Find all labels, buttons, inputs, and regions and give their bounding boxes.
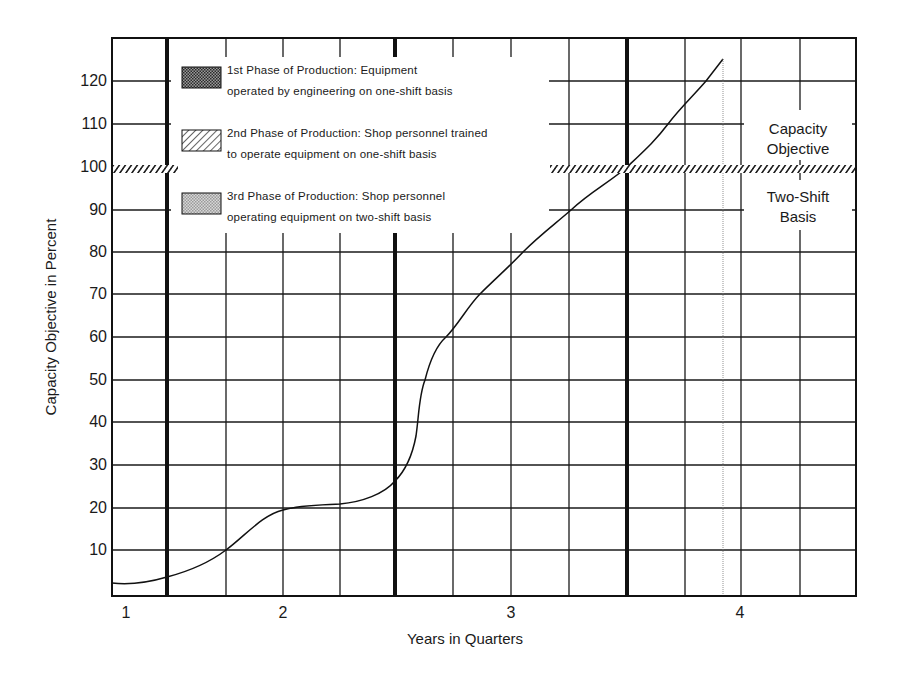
capacity-band-right xyxy=(550,165,856,173)
x-tick-label: 1 xyxy=(122,605,131,621)
x-tick-label: 3 xyxy=(507,605,516,621)
y-tick-label: 120 xyxy=(65,73,107,89)
x-tick-label: 4 xyxy=(736,605,745,621)
legend-swatch-phase2 xyxy=(182,130,221,151)
legend-line: operating equipment on two-shift basis xyxy=(227,207,445,228)
annotation-line: Objective xyxy=(753,139,843,159)
annotation-line: Basis xyxy=(753,207,843,227)
legend-line: 3rd Phase of Production: Shop personnel xyxy=(227,186,445,207)
y-tick-label: 70 xyxy=(65,286,107,302)
y-tick-label: 10 xyxy=(65,542,107,558)
legend-line: operated by engineering on one-shift bas… xyxy=(227,81,453,102)
y-tick-label: 50 xyxy=(65,372,107,388)
y-tick-label: 60 xyxy=(65,329,107,345)
annotation-line: Capacity xyxy=(753,119,843,139)
annotation-line: Two-Shift xyxy=(753,187,843,207)
legend-item-phase1: 1st Phase of Production: Equipment opera… xyxy=(227,60,453,102)
y-tick-label: 80 xyxy=(65,244,107,260)
x-axis-title: Years in Quarters xyxy=(407,630,523,647)
legend-line: to operate equipment on one-shift basis xyxy=(227,144,488,165)
legend-line: 2nd Phase of Production: Shop personnel … xyxy=(227,123,488,144)
capacity-band-left xyxy=(112,165,178,173)
y-tick-label: 90 xyxy=(65,202,107,218)
y-tick-label: 100 xyxy=(65,159,107,175)
legend-swatch-phase3 xyxy=(182,193,221,214)
y-tick-label: 30 xyxy=(65,457,107,473)
legend-swatch-phase1 xyxy=(182,67,221,88)
y-tick-label: 40 xyxy=(65,414,107,430)
legend-line: 1st Phase of Production: Equipment xyxy=(227,60,453,81)
capacity-objective-label: Capacity Objective xyxy=(753,119,843,159)
two-shift-basis-label: Two-Shift Basis xyxy=(753,187,843,227)
legend-item-phase3: 3rd Phase of Production: Shop personnel … xyxy=(227,186,445,228)
y-tick-label: 110 xyxy=(65,116,107,132)
y-axis-title: Capacity Objective in Percent xyxy=(42,219,59,416)
x-tick-label: 2 xyxy=(279,605,288,621)
legend-item-phase2: 2nd Phase of Production: Shop personnel … xyxy=(227,123,488,165)
y-tick-label: 20 xyxy=(65,500,107,516)
